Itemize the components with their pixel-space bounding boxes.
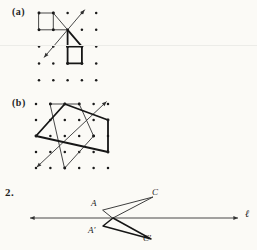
panel-a-thick-original-shape <box>68 30 82 64</box>
mirror-line-label: ℓ <box>245 209 249 218</box>
panel-b-label: (b) <box>12 97 26 108</box>
vertex-label-A: A <box>91 199 97 208</box>
panel-a-label: (a) <box>12 6 25 17</box>
page: { "background": "#fbfaf6", "ink": { "thi… <box>0 0 257 250</box>
panel-a-thin-image-shape <box>39 13 68 30</box>
vertex-label-C: C <box>152 188 158 197</box>
panel-b-mirror-arrow <box>37 102 107 168</box>
scan-artifact-line <box>0 45 257 46</box>
item-2-figure <box>30 197 238 239</box>
vertex-label-C-prime: C′ <box>143 234 151 243</box>
panel-b-thick-original-shape <box>36 104 108 152</box>
figure-canvas <box>0 0 257 250</box>
panel-a-mirror-arrow <box>44 10 85 58</box>
item-2-number: 2. <box>5 186 14 198</box>
vertex-label-A-prime: A′ <box>88 226 95 235</box>
panel-b-dot-grid <box>35 103 110 170</box>
